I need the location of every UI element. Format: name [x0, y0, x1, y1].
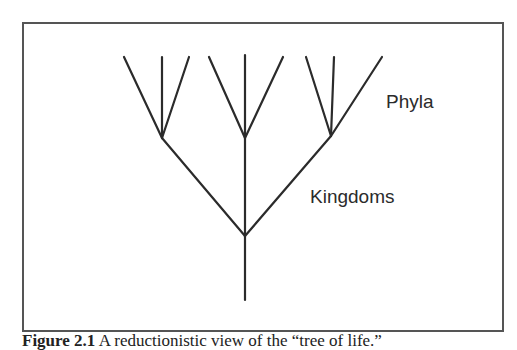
phylum-branch-middle-1 — [209, 57, 245, 138]
phylum-branch-left-3 — [162, 57, 189, 138]
caption-text: A reductionistic view of the “tree of li… — [95, 331, 382, 350]
phylum-branch-right-3 — [331, 57, 382, 136]
phylum-branch-left-1 — [124, 57, 162, 138]
tree-branches — [124, 55, 382, 300]
kingdoms-label: Kingdoms — [310, 187, 395, 206]
figure-caption: Figure 2.1 A reductionistic view of the … — [22, 332, 382, 349]
phylum-branch-right-1 — [306, 57, 331, 136]
phyla-label: Phyla — [386, 92, 434, 111]
phylum-branch-right-2 — [331, 57, 334, 136]
caption-figure-number: Figure 2.1 — [22, 331, 95, 350]
phylum-branch-middle-3 — [245, 57, 283, 138]
kingdom-branch-left — [162, 138, 245, 236]
